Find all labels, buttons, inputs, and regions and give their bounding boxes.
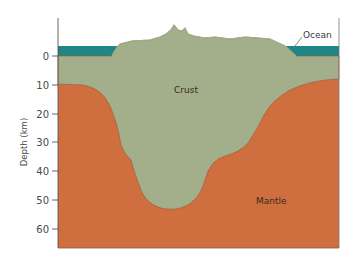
tick-label-60: 60 bbox=[36, 224, 49, 235]
crust-label: Crust bbox=[174, 85, 198, 95]
ocean-label: Ocean bbox=[303, 30, 332, 40]
tick-label-50: 50 bbox=[36, 195, 49, 206]
tick-label-20: 20 bbox=[36, 109, 49, 120]
crust-mantle-cross-section: 0 10 20 30 40 50 60 Depth (km) Ocean Cru… bbox=[0, 0, 359, 264]
tick-label-30: 30 bbox=[36, 137, 49, 148]
tick-label-40: 40 bbox=[36, 166, 49, 177]
ocean-leader-line bbox=[295, 37, 302, 46]
tick-label-10: 10 bbox=[36, 80, 49, 91]
tick-label-0: 0 bbox=[43, 51, 49, 62]
y-axis-ticks bbox=[52, 56, 58, 229]
mantle-label: Mantle bbox=[256, 196, 287, 206]
y-axis-title: Depth (km) bbox=[19, 118, 29, 166]
